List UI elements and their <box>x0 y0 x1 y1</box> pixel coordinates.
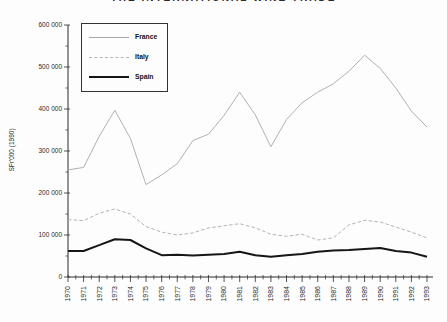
x-tick-label: 1973 <box>111 286 118 302</box>
legend-label-spain: Spain <box>135 74 154 81</box>
y-tick-label: 100 000 <box>39 231 63 238</box>
legend-label-italy: Italy <box>135 54 149 61</box>
x-tick-label: 1975 <box>142 286 149 302</box>
x-tick-label: 1989 <box>361 286 368 302</box>
x-tick-label: 1981 <box>236 286 243 302</box>
y-tick-label: 200 000 <box>39 189 63 196</box>
france-line-sample <box>89 37 129 38</box>
x-tick-label: 1972 <box>96 286 103 302</box>
spain-line-sample <box>89 76 129 78</box>
x-tick-label: 1985 <box>299 286 306 302</box>
x-tick-label: 1976 <box>158 286 165 302</box>
x-tick-label: 1986 <box>314 286 321 302</box>
legend-item-france: France <box>89 34 167 41</box>
italy-line-sample <box>89 57 129 58</box>
x-tick-label: 1993 <box>423 286 430 302</box>
spain-series-line <box>68 239 427 257</box>
x-tick-label: 1974 <box>127 286 134 302</box>
y-tick-label: 400 000 <box>39 105 63 112</box>
x-tick-label: 1992 <box>408 286 415 302</box>
legend-item-italy: Italy <box>89 54 167 61</box>
italy-series-line <box>68 209 427 240</box>
x-tick-label: 1971 <box>80 286 87 302</box>
x-tick-label: 1991 <box>392 286 399 302</box>
x-tick-label: 1980 <box>220 286 227 302</box>
plot-area: 0100 000200 000300 000400 000500 000600 … <box>0 0 447 322</box>
wine-trade-chart: THE INTERNATIONAL WINE TRADE SFr'000 (19… <box>0 0 447 322</box>
legend-item-spain: Spain <box>89 74 167 81</box>
legend-label-france: France <box>135 34 157 41</box>
y-tick-label: 500 000 <box>39 63 63 70</box>
x-tick-label: 1983 <box>267 286 274 302</box>
x-tick-label: 1990 <box>377 286 384 302</box>
x-tick-label: 1978 <box>189 286 196 302</box>
x-tick-label: 1984 <box>283 286 290 302</box>
x-tick-label: 1970 <box>64 286 71 302</box>
legend: France Italy Spain <box>81 23 168 92</box>
x-tick-label: 1979 <box>205 286 212 302</box>
y-tick-label: 600 000 <box>39 21 63 28</box>
x-tick-label: 1987 <box>330 286 337 302</box>
x-tick-label: 1977 <box>174 286 181 302</box>
y-tick-label: 0 <box>58 273 62 280</box>
x-tick-label: 1982 <box>252 286 259 302</box>
x-tick-label: 1988 <box>345 286 352 302</box>
y-tick-label: 300 000 <box>39 147 63 154</box>
